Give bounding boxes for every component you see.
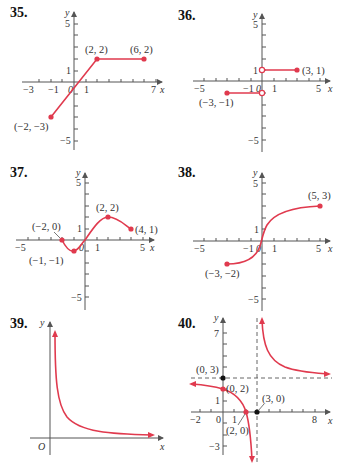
y-tick-label: −3	[209, 441, 220, 452]
y-arrow-icon	[47, 321, 53, 327]
x-axis-label: x	[159, 441, 165, 452]
closed-point	[94, 56, 99, 61]
y-axis-label: y	[213, 312, 219, 323]
y-arrow-icon	[220, 317, 226, 323]
origin-label: O	[38, 441, 45, 452]
closed-point	[317, 203, 322, 208]
y-tick-label: 7	[214, 328, 219, 339]
exercise-number: 37.	[10, 165, 28, 180]
point-label: (−2, 0)	[32, 221, 61, 233]
leader-line	[54, 232, 60, 238]
graph-39: 39. y x O	[10, 316, 165, 455]
y-tick-label: 5	[253, 178, 258, 189]
x-tick-label: 8	[312, 414, 317, 425]
closed-point	[294, 67, 299, 72]
y-tick-label: 5	[76, 177, 81, 188]
y-axis-label: y	[39, 317, 45, 328]
y-tick-label: 1	[77, 223, 82, 234]
point-label: (0, 2)	[226, 383, 249, 395]
graph-curve	[227, 206, 320, 264]
y-tick-label: 1	[215, 395, 220, 406]
y-axis-label: y	[252, 167, 258, 178]
point-label: (0, 3)	[196, 364, 219, 376]
closed-point	[105, 214, 110, 219]
open-point	[259, 90, 264, 95]
curve-arrow-icon	[148, 432, 155, 438]
graph-36: 36. y x 5 1 −5 −5 −1 0 1 5	[178, 8, 333, 152]
y-tick-label: 1	[253, 65, 258, 76]
x-tick-label: −3	[23, 84, 34, 95]
leader-line	[238, 414, 245, 425]
y-tick-label: 1	[254, 224, 259, 235]
y-tick-label: −5	[248, 135, 259, 146]
closed-point	[224, 90, 229, 95]
graph-curve	[51, 59, 144, 117]
x-tick-label: 1	[84, 84, 89, 95]
x-tick-label: 5	[140, 242, 145, 253]
curve-arrow-icon	[189, 381, 196, 387]
leader-line	[258, 404, 264, 411]
y-arrow-icon	[71, 11, 77, 17]
point-label: (2, 2)	[85, 44, 108, 56]
point-label: (3, 0)	[262, 393, 285, 405]
exercise-number: 38.	[178, 165, 196, 180]
x-tick-label: −2	[190, 414, 201, 425]
x-tick-label: −1	[243, 243, 254, 254]
curve-arrow-icon	[52, 330, 58, 337]
y-ticks	[262, 24, 266, 140]
y-axis-label: y	[64, 7, 70, 18]
y-tick-label: 1	[66, 65, 71, 76]
closed-point	[71, 248, 76, 253]
point-label: (4, 1)	[135, 224, 158, 236]
open-point	[259, 67, 264, 72]
exercise-number: 39.	[10, 316, 28, 331]
curve-arrow-icon	[249, 456, 255, 463]
exercise-number: 36.	[178, 8, 196, 23]
x-tick-label: 7	[151, 84, 156, 95]
x-tick-label: −1	[48, 84, 59, 95]
curve-arrow-icon	[324, 371, 331, 377]
x-tick-label: 1	[272, 83, 277, 94]
x-tick-label: −5	[194, 243, 205, 254]
graph-37: 37. y x 5 1 −5 −5 0 1 5 (	[10, 165, 158, 310]
x-tick-label: 5	[316, 243, 321, 254]
closed-point	[128, 226, 133, 231]
y-arrow-icon	[259, 13, 265, 19]
y-tick-label: −5	[71, 292, 82, 303]
x-tick-label: −5	[194, 83, 205, 94]
x-tick-label: 1	[232, 414, 237, 425]
graph-curve-left	[192, 384, 252, 460]
curve-arrow-icon	[259, 317, 265, 324]
graph-40: 40. y x 7 1 −3 −2 0 1 8	[178, 312, 333, 463]
point-label: (−2, −3)	[14, 121, 49, 133]
graph-38: 38. y x 5 1 −5 −5 −1 0 1 5 (−3,	[178, 165, 333, 311]
graph-35: 35. y x 5 1 −5 −3 −1 0 1 7	[10, 5, 165, 150]
graph-curve	[55, 333, 152, 435]
point-2-0	[243, 409, 248, 414]
x-axis-label: x	[149, 242, 155, 253]
y-arrow-icon	[82, 172, 88, 178]
closed-point	[48, 114, 53, 119]
x-tick-label: 0	[216, 414, 221, 425]
y-arrow-icon	[259, 172, 265, 178]
point-0-3	[220, 375, 225, 380]
point-label: (−3, −2)	[205, 268, 240, 280]
point-label: (6, 2)	[130, 44, 153, 56]
point-label: (2, 0)	[226, 425, 249, 437]
y-tick-label: 5	[65, 18, 70, 29]
y-tick-label: −5	[248, 294, 259, 305]
x-tick-label: 5	[316, 83, 321, 94]
graph-curve-right	[262, 320, 328, 374]
x-axis-label: x	[327, 83, 333, 94]
point-label: (−3, −1)	[199, 97, 234, 109]
point-0-2	[220, 386, 225, 391]
x-axis-label: x	[159, 84, 165, 95]
x-tick-label: 1	[95, 242, 100, 253]
point-label: (2, 2)	[96, 202, 119, 214]
closed-point	[224, 261, 229, 266]
exercise-number: 35.	[10, 5, 28, 20]
y-tick-label: −5	[60, 135, 71, 146]
y-tick-label: 5	[253, 19, 258, 30]
x-tick-label: 1	[272, 243, 277, 254]
point-label: (5, 3)	[308, 190, 331, 202]
